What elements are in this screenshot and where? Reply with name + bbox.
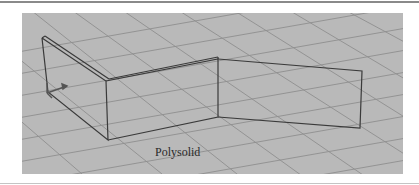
3d-viewport[interactable]: Polysolid [22,13,403,174]
top-rule [0,1,419,3]
bottom-rule [0,183,419,184]
polysolid-label: Polysolid [155,145,200,160]
perspective-grid [22,13,403,174]
